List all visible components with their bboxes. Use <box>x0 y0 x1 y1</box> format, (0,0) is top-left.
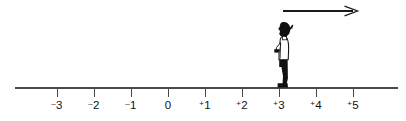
tick-digit: 5 <box>352 99 359 111</box>
tick-digit: 2 <box>93 99 100 111</box>
tick-label-plus-5: +5 <box>347 100 359 112</box>
tick-label-plus-1: +1 <box>199 100 211 112</box>
tick-marks <box>57 88 353 97</box>
tick-digit: 3 <box>278 99 285 111</box>
person-head <box>278 22 290 37</box>
tick-label-plus-4: +4 <box>310 100 322 112</box>
tick-label-plus-3: +3 <box>273 100 285 112</box>
tick-digit: 3 <box>56 99 63 111</box>
tick-label-minus-2: –2 <box>88 100 99 112</box>
tick-digit: 1 <box>130 99 137 111</box>
person-legs <box>279 58 288 86</box>
tick-digit: 0 <box>165 99 172 111</box>
person-hand <box>274 49 279 52</box>
tick-label-minus-3: –3 <box>51 100 62 112</box>
tick-label-zero: 0 <box>165 100 172 112</box>
tick-digit: 2 <box>241 99 248 111</box>
tick-label-plus-2: +2 <box>236 100 248 112</box>
tick-label-minus-1: –1 <box>125 100 136 112</box>
number-line-figure: –3 –2 –1 0 +1 +2 +3 +4 +5 <box>0 0 406 121</box>
motion-direction-arrow-icon <box>283 6 358 16</box>
tick-digit: 1 <box>204 99 211 111</box>
person-shoe <box>278 83 288 87</box>
tick-digit: 4 <box>315 99 322 111</box>
walking-person-icon <box>274 22 293 88</box>
